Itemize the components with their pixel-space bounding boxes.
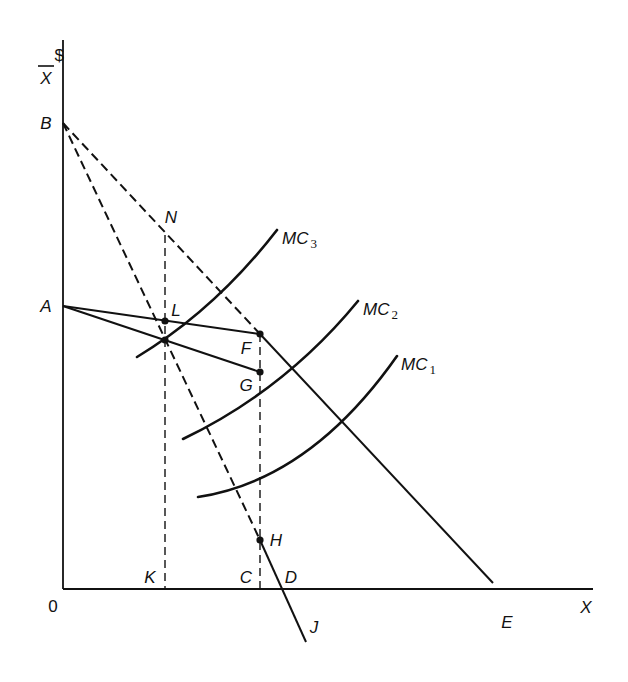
- dashed-line-B-F: [63, 123, 260, 334]
- mc2-name: MC: [363, 300, 390, 319]
- point-F-dot: [256, 330, 263, 337]
- point-H-dot: [256, 536, 263, 543]
- mc1-subscript: 1: [429, 362, 436, 377]
- label-mc1: MC1: [401, 355, 436, 377]
- y-axis-label-x: X: [39, 69, 52, 88]
- label-D: D: [285, 568, 297, 587]
- mc1-name: MC: [401, 355, 428, 374]
- label-K: K: [144, 568, 156, 587]
- label-L: L: [171, 301, 180, 320]
- mc2-subscript: 2: [391, 307, 398, 322]
- dashed-line-B-H: [63, 123, 260, 540]
- label-F: F: [241, 339, 253, 358]
- label-N: N: [165, 208, 178, 227]
- origin-label: 0: [48, 597, 57, 616]
- label-J: J: [309, 618, 319, 637]
- label-G: G: [239, 376, 252, 395]
- mc3-name: MC: [282, 229, 309, 248]
- economics-diagram: $ X X 0 B A N L F G H K C D J E MC3 MC2 …: [0, 0, 628, 682]
- label-mc3: MC3: [282, 229, 317, 251]
- label-B: B: [40, 114, 51, 133]
- mc1-curve: [198, 356, 397, 497]
- point-G-dot: [256, 368, 263, 375]
- point-L-dot: [161, 317, 168, 324]
- label-H: H: [270, 531, 283, 550]
- label-mc2: MC2: [363, 300, 398, 322]
- label-E: E: [501, 613, 513, 632]
- line-H-J: [260, 540, 306, 642]
- line-A-G: [63, 306, 260, 372]
- point-intersection-dot: [161, 336, 168, 343]
- label-A: A: [39, 297, 51, 316]
- x-axis-label: X: [579, 598, 592, 617]
- mc3-subscript: 3: [310, 236, 317, 251]
- y-axis-label-dollar: $: [55, 46, 65, 65]
- label-C: C: [240, 568, 253, 587]
- mc2-curve: [183, 301, 358, 439]
